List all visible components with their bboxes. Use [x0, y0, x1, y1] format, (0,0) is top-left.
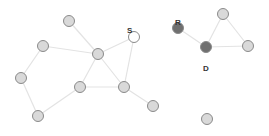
edges-layer — [21, 14, 248, 116]
node-L — [202, 114, 213, 125]
edge-C-G — [98, 54, 124, 87]
node-label-S: S — [127, 26, 133, 35]
network-graph: SRD — [0, 0, 269, 136]
edge-J-K — [223, 14, 248, 46]
edge-S-G — [124, 37, 134, 87]
node-F — [75, 82, 86, 93]
edge-H-F — [38, 87, 80, 116]
edge-B-C — [43, 46, 98, 54]
node-I — [148, 101, 159, 112]
node-K — [243, 41, 254, 52]
node-label-D: D — [203, 64, 209, 73]
node-C — [93, 49, 104, 60]
edge-E-H — [21, 78, 38, 116]
node-H — [33, 111, 44, 122]
node-label-R: R — [175, 18, 181, 27]
edge-D-K — [206, 46, 248, 47]
node-E — [16, 73, 27, 84]
node-D — [201, 42, 212, 53]
node-J — [218, 9, 229, 20]
node-G — [119, 82, 130, 93]
edge-A-C — [69, 21, 98, 54]
node-A — [64, 16, 75, 27]
node-B — [38, 41, 49, 52]
labels-layer: SRD — [127, 18, 209, 73]
